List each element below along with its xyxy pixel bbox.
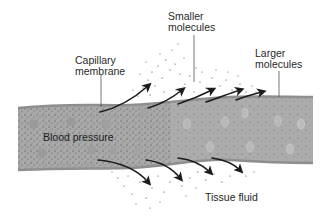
membrane-label-line2: membrane: [75, 66, 125, 77]
larger-molecules-line2: molecules: [255, 59, 302, 70]
blood-pressure-label: Blood pressure: [43, 131, 114, 143]
smaller-molecules-line2: molecules: [168, 22, 215, 33]
tissue-fluid-label: Tissue fluid: [205, 191, 258, 203]
smaller-molecules-label: Smaller molecules: [168, 11, 215, 33]
diagram-canvas: [0, 0, 332, 218]
capillary-membrane-label: Capillary membrane: [75, 55, 125, 77]
capillary-diagram: Capillary membrane Smaller molecules Lar…: [0, 0, 332, 218]
larger-molecules-label: Larger molecules: [255, 48, 302, 70]
